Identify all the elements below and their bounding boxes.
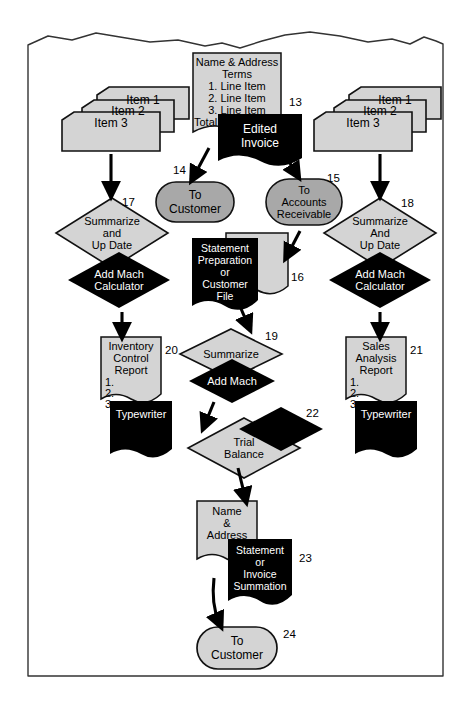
sales-analysis-report-document: Sales Analysis Report 1. 2. 3.: [345, 336, 407, 408]
sales-report-line-1: Sales: [345, 340, 407, 352]
callout-14: 14: [173, 164, 186, 176]
statement-or-invoice-summation-document: Statement or Invoice Summation: [228, 539, 292, 609]
to-customer-bottom-line-2: Customer: [211, 648, 263, 662]
statement-prep-line-5: File: [192, 290, 258, 302]
statement-prep-line-4: Customer: [192, 278, 258, 290]
statement-prep-line-2: Preparation: [192, 254, 258, 266]
left-summarize-line-3: Up Date: [92, 239, 132, 251]
inventory-report-line-2: Control: [100, 352, 162, 364]
left-summarize-line-1: Summarize: [84, 215, 140, 227]
inventory-report-line-1: Inventory: [100, 340, 162, 352]
name-address-line-2: &: [196, 517, 258, 529]
right-add-mach-diamond: Add Mach Calculator: [328, 251, 432, 309]
callout-20: 20: [165, 344, 178, 356]
left-item-card-3: Item 3: [61, 111, 161, 152]
right-typewriter-document: Typewriter: [355, 401, 417, 461]
sales-report-line-2: Analysis: [345, 352, 407, 364]
left-add-mach-line-1: Add Mach: [94, 268, 144, 280]
summation-line-1: Statement: [228, 544, 292, 556]
callout-24: 24: [283, 628, 296, 640]
callout-19: 19: [265, 330, 278, 342]
edited-invoice-line-1: Edited: [218, 122, 302, 136]
callout-23: 23: [299, 552, 312, 564]
edited-invoice-document: Edited Invoice: [218, 114, 302, 170]
statement-prep-line-3: or: [192, 266, 258, 278]
edited-invoice-line-2: Invoice: [218, 136, 302, 150]
left-add-mach-diamond: Add Mach Calculator: [67, 251, 171, 309]
right-summarize-line-2: And: [370, 227, 390, 239]
callout-18: 18: [401, 197, 414, 209]
to-customer-top-line-1: To: [189, 188, 202, 202]
invoice-line-name-address: Name & Address: [192, 56, 282, 68]
invoice-line-item-2: 2. Line Item: [192, 92, 282, 104]
right-add-mach-line-1: Add Mach: [355, 268, 405, 280]
to-ar-line-1: To: [298, 184, 310, 196]
callout-16: 16: [291, 271, 304, 283]
inventory-report-line-3: Report: [100, 364, 162, 376]
callout-17: 17: [122, 196, 135, 208]
to-ar-line-2: Accounts: [281, 196, 326, 208]
callout-21: 21: [410, 344, 423, 356]
left-summarize-line-2: and: [103, 227, 121, 239]
callout-13: 13: [289, 96, 302, 108]
summation-line-3: Invoice: [228, 568, 292, 580]
invoice-line-terms: Terms: [192, 68, 282, 80]
right-item-card-3: Item 3: [313, 111, 413, 152]
right-typewriter-label: Typewriter: [355, 408, 417, 420]
inventory-control-report-document: Inventory Control Report 1. 2. 3.: [100, 336, 162, 408]
right-summarize-line-1: Summarize: [352, 215, 408, 227]
right-summarize-line-3: Up Date: [360, 239, 400, 251]
to-customer-bottom-terminal: To Customer: [196, 626, 278, 670]
left-typewriter-label: Typewriter: [110, 408, 172, 420]
right-add-mach-line-2: Calculator: [355, 280, 405, 292]
left-item-3-label: Item 3: [61, 116, 161, 130]
name-address-line-1: Name: [196, 505, 258, 517]
statement-prep-line-1: Statement: [192, 242, 258, 254]
statement-preparation-document: Statement Preparation or Customer File: [192, 238, 258, 316]
left-add-mach-line-2: Calculator: [94, 280, 144, 292]
sales-report-line-3: Report: [345, 364, 407, 376]
center-add-mach-label: Add Mach: [207, 375, 257, 387]
right-item-3-label: Item 3: [313, 116, 413, 130]
flowchart-page: Item 1 Item 2 Item 3 Item 1 Item 2 Item …: [0, 0, 471, 714]
summation-line-4: Summation: [228, 580, 292, 592]
left-typewriter-document: Typewriter: [110, 401, 172, 461]
invoice-line-item-1: 1. Line Item: [192, 80, 282, 92]
callout-15: 15: [327, 172, 340, 184]
center-add-mach-diamond: Add Mach: [188, 358, 276, 404]
callout-22: 22: [306, 407, 319, 419]
to-customer-bottom-line-1: To: [231, 634, 244, 648]
to-customer-top-line-2: Customer: [169, 202, 221, 216]
summation-line-2: or: [228, 556, 292, 568]
